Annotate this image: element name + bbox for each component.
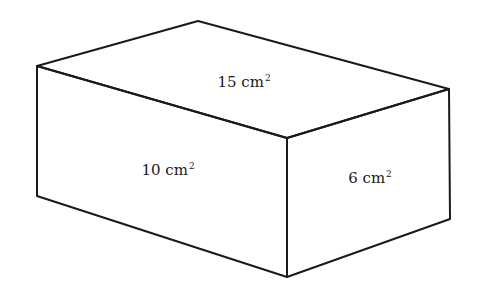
top-face-area-exponent: 2 xyxy=(265,73,271,83)
front-face-area-label: 10 cm2 xyxy=(141,162,194,178)
prism-diagram xyxy=(0,0,480,294)
front-face-area-exponent: 2 xyxy=(189,161,195,171)
side-face-area-value: 6 xyxy=(348,169,358,187)
top-face-area-value: 15 xyxy=(217,73,236,91)
front-face-area-unit: cm xyxy=(165,161,188,179)
side-face-area-label: 6 cm2 xyxy=(348,170,392,186)
side-face-area-exponent: 2 xyxy=(386,169,392,179)
top-face-area-label: 15 cm2 xyxy=(217,74,270,90)
top-face-area-unit: cm xyxy=(241,73,264,91)
side-face-area-unit: cm xyxy=(362,169,385,187)
front-face-area-value: 10 xyxy=(141,161,160,179)
